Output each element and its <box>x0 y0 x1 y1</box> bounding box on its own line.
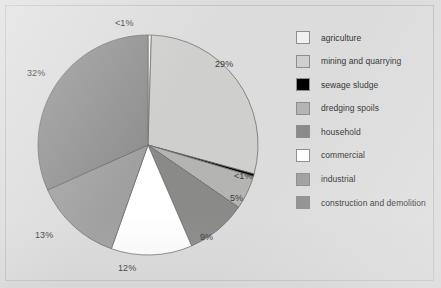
legend-item-sewage-sludge[interactable]: sewage sludge <box>296 77 436 92</box>
legend-swatch-icon <box>296 196 310 209</box>
pie-label-mining-and-quarrying: 29% <box>215 59 233 69</box>
pie-chart: <1% 29% <1% 5% 9% 12% 13% 32% <box>12 8 287 280</box>
legend-item-commercial[interactable]: commercial <box>296 148 436 163</box>
legend-item-label: industrial <box>321 174 356 184</box>
legend-item-label: mining and quarrying <box>321 56 401 66</box>
legend-item-dredging-spoils[interactable]: dredging spoils <box>296 101 436 116</box>
pie-label-industrial: 13% <box>35 230 53 240</box>
legend-item-agriculture[interactable]: agriculture <box>296 30 436 45</box>
figure-container: <1% 29% <1% 5% 9% 12% 13% 32% agricultur… <box>0 0 441 288</box>
legend-swatch-icon <box>296 31 310 44</box>
legend-item-household[interactable]: household <box>296 124 436 139</box>
legend-swatch-icon <box>296 173 310 186</box>
legend-item-label: construction and demolition <box>321 198 426 208</box>
legend-item-label: household <box>321 127 361 137</box>
pie-label-construction-and-demolition: 32% <box>27 68 45 78</box>
legend-swatch-icon <box>296 102 310 115</box>
legend-item-mining-and-quarrying[interactable]: mining and quarrying <box>296 54 436 69</box>
legend-swatch-icon <box>296 149 310 162</box>
pie-label-commercial: 12% <box>118 263 136 273</box>
legend: agriculturemining and quarryingsewage sl… <box>296 30 436 219</box>
legend-swatch-icon <box>296 55 310 68</box>
pie-label-household: 9% <box>200 232 213 242</box>
pie-label-agriculture: <1% <box>115 18 134 28</box>
pie-label-dredging-spoils: 5% <box>230 193 243 203</box>
legend-item-label: agriculture <box>321 33 361 43</box>
legend-swatch-icon <box>296 125 310 138</box>
legend-item-construction-and-demolition[interactable]: construction and demolition <box>296 195 436 210</box>
legend-item-label: commercial <box>321 150 365 160</box>
pie-label-sewage-sludge: <1% <box>234 171 253 181</box>
legend-item-industrial[interactable]: industrial <box>296 172 436 187</box>
legend-item-label: dredging spoils <box>321 103 379 113</box>
legend-swatch-icon <box>296 78 310 91</box>
legend-item-label: sewage sludge <box>321 80 378 90</box>
